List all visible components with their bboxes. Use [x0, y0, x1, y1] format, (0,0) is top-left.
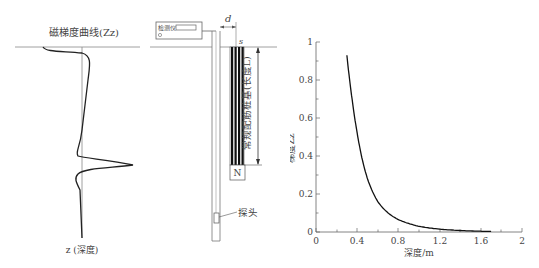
y-tick-0.4: 0.4 [299, 151, 314, 161]
instrument-label: 检测仪 [158, 24, 176, 32]
borehole-tube [212, 31, 220, 241]
spacing-dimension: d [220, 13, 236, 47]
y-tick-0.2: 0.2 [299, 189, 313, 199]
spacing-label: d [225, 13, 231, 24]
y-tick-0.6: 0.6 [299, 113, 314, 123]
gradient-curve-title: 磁梯度曲线(Zz) [49, 26, 119, 38]
gradient-curve-panel: 磁梯度曲线(Zz) z (深度) [0, 0, 150, 268]
gradient-line [347, 55, 491, 231]
gradient-depth-chart: 0 0.2 0.4 0.6 0.8 1 梯度Zz 0 0.4 0.8 1.2 1… [290, 0, 539, 268]
pile-top-label: s [239, 37, 243, 46]
x-tick-2: 2 [519, 236, 525, 246]
gradient-curve [43, 47, 133, 238]
x-axis: 0 0.4 0.8 1.2 1.6 2 [313, 228, 525, 246]
x-tick-0.8: 0.8 [391, 236, 406, 246]
x-tick-0: 0 [313, 236, 319, 246]
y-axis: 0 0.2 0.4 0.6 0.8 1 [299, 37, 320, 237]
y-tick-0.8: 0.8 [299, 75, 314, 85]
detection-schematic: 检测仪 d s N 常规配筋桩基(长度L) 探头 [140, 0, 300, 268]
detector-instrument: 检测仪 [156, 22, 216, 39]
x-tick-1.6: 1.6 [474, 236, 489, 246]
x-tick-1.2: 1.2 [433, 236, 447, 246]
x-tick-0.4: 0.4 [350, 236, 365, 246]
depth-axis-label: z (深度) [66, 244, 99, 255]
y-tick-1: 1 [307, 37, 313, 47]
x-axis-label: 深度/m [404, 247, 434, 258]
probe-label: 探头 [238, 207, 258, 218]
probe: 探头 [214, 207, 258, 223]
north-pole-label: N [234, 168, 242, 178]
pile-label: 常规配筋桩基(长度L) [241, 56, 252, 150]
y-axis-label: 梯度Zz [290, 133, 296, 162]
